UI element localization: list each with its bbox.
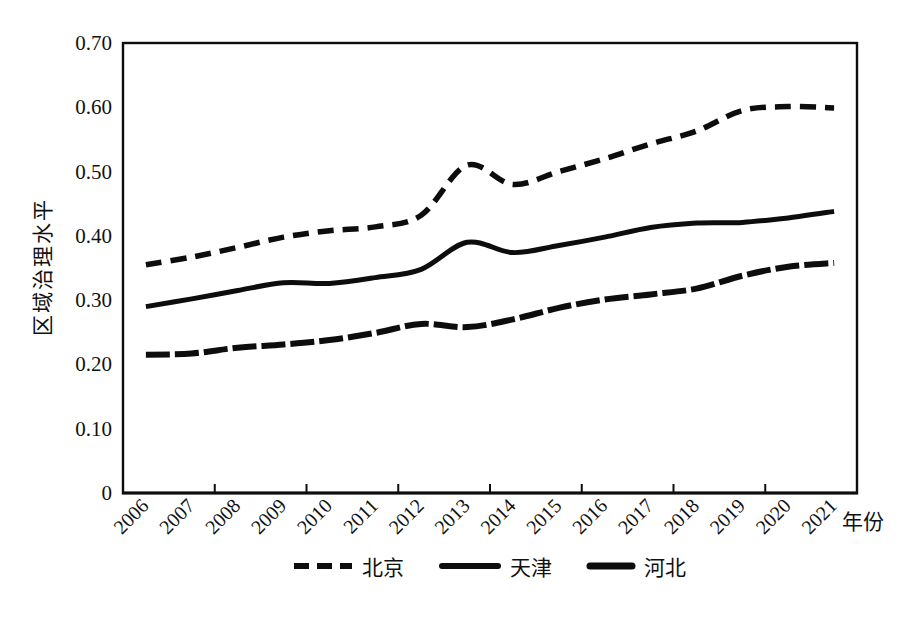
y-tick-label: 0.70: [75, 31, 112, 55]
plot-border: [123, 43, 857, 493]
x-tick-label: 2006: [109, 494, 153, 538]
x-tick-label: 2014: [476, 494, 520, 538]
x-tick-label: 2019: [705, 494, 749, 538]
x-tick-label: 2016: [568, 494, 612, 538]
chart-legend: 北京 天津 河北: [0, 551, 921, 581]
x-tick-label: 2015: [522, 494, 566, 538]
x-tick-label: 2012: [384, 494, 428, 538]
x-tick-label: 2021: [797, 494, 841, 538]
x-tick-label: 2020: [751, 494, 795, 538]
x-tick-label: 2010: [292, 494, 336, 538]
x-tick-label: 2017: [614, 494, 658, 538]
y-tick-label: 0: [102, 481, 113, 505]
legend-item-hebei: 河北: [586, 551, 686, 581]
legend-item-tianjin: 天津: [438, 551, 552, 581]
legend-label-hebei: 河北: [644, 551, 686, 581]
hebei-thick-line-sample: [586, 560, 636, 572]
series-line-北京: [146, 107, 834, 265]
legend-label-beijing: 北京: [362, 551, 404, 581]
legend-label-tianjin: 天津: [510, 551, 552, 581]
y-tick-label: 0.60: [75, 95, 112, 119]
beijing-dashed-line-sample: [292, 560, 354, 572]
x-axis-title: 年份: [842, 505, 884, 535]
y-tick-label: 0.10: [75, 417, 112, 441]
x-tick-label: 2007: [155, 494, 199, 538]
x-tick-label: 2018: [659, 494, 703, 538]
y-tick-label: 0.40: [75, 224, 112, 248]
legend-item-beijing: 北京: [292, 551, 404, 581]
y-tick-label: 0.20: [75, 352, 112, 376]
x-tick-label: 2013: [430, 494, 474, 538]
y-tick-label: 0.50: [75, 160, 112, 184]
series-line-天津: [146, 211, 834, 306]
series-line-河北: [146, 263, 834, 355]
chart-plot-area: 00.100.200.300.400.500.600.7020062007200…: [0, 0, 921, 545]
y-tick-label: 0.30: [75, 288, 112, 312]
line-chart-figure: 00.100.200.300.400.500.600.7020062007200…: [0, 0, 921, 618]
tianjin-solid-line-sample: [438, 560, 502, 572]
x-tick-label: 2009: [247, 494, 291, 538]
x-tick-label: 2008: [201, 494, 245, 538]
y-axis-title: 区域治理水平: [26, 191, 52, 343]
x-tick-label: 2011: [339, 494, 382, 537]
